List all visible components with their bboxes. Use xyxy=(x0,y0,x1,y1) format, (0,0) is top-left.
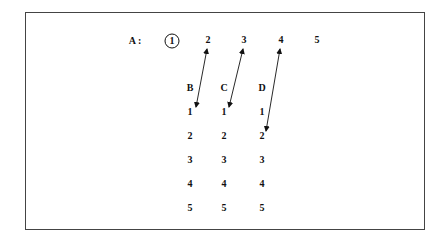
arrows-layer xyxy=(0,0,447,247)
arrow-a2-b1 xyxy=(196,49,207,107)
arrow-a3-c1 xyxy=(229,49,243,107)
arrow-a4-d2 xyxy=(266,49,280,131)
